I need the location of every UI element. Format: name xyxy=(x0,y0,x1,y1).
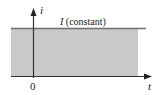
curve-symbol: I xyxy=(60,16,63,27)
x-axis-arrow-icon xyxy=(144,74,152,80)
curve-note: (constant) xyxy=(66,16,106,27)
x-axis-label: t xyxy=(148,81,151,92)
plot-canvas xyxy=(0,0,159,95)
y-axis-arrow-icon xyxy=(31,8,37,16)
current-time-plot: i I (constant) 0 t xyxy=(0,0,159,95)
y-axis-label: i xyxy=(40,5,43,16)
shaded-area xyxy=(11,28,138,76)
origin-label: 0 xyxy=(30,81,36,92)
curve-annotation: I (constant) xyxy=(60,17,106,27)
